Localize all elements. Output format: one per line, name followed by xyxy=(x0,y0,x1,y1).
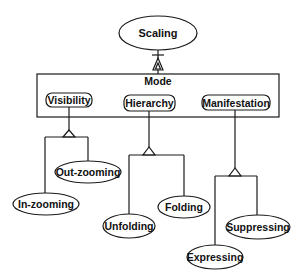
value-label: Folding xyxy=(165,201,203,213)
visibility-label: Visibility xyxy=(48,94,91,106)
value-node: Folding xyxy=(158,155,210,218)
scaling-node: Scaling xyxy=(119,16,197,50)
manifestation-label: Manifestation xyxy=(202,97,270,109)
scaling-label: Scaling xyxy=(138,27,177,39)
value-label: Unfolding xyxy=(105,220,154,232)
specialization-triangle-icon xyxy=(63,130,75,137)
mode-label: Mode xyxy=(144,75,172,87)
exhibition-link xyxy=(152,50,164,74)
specialization-triangle-icon xyxy=(143,147,155,155)
value-node: Out-zooming xyxy=(55,137,121,183)
attribute-manifestation: ManifestationExpressingSuppressing xyxy=(187,95,290,269)
value-label: Out-zooming xyxy=(56,166,121,178)
value-node: Suppressing xyxy=(226,176,290,239)
value-label: Expressing xyxy=(187,251,244,263)
value-label: In-zooming xyxy=(18,198,74,210)
specialization-triangle-icon xyxy=(229,168,241,176)
scaling-mode-diagram: Scaling Mode VisibilityIn-zoomingOut-zoo… xyxy=(0,0,301,280)
attributes-layer: VisibilityIn-zoomingOut-zoomingHierarchy… xyxy=(13,93,290,269)
value-label: Suppressing xyxy=(226,221,290,233)
hierarchy-label: Hierarchy xyxy=(125,97,174,109)
